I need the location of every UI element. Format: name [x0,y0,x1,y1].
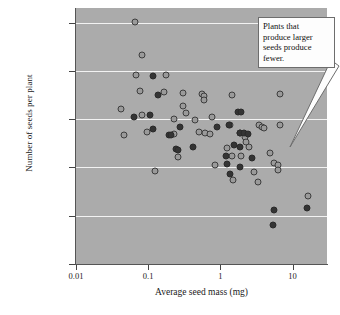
data-point [182,109,189,116]
data-point [175,153,182,160]
annotation-line: produce larger [263,32,331,43]
data-point [223,153,230,160]
x-axis-tick-label: 1 [218,272,222,281]
data-point [146,112,153,119]
data-point [154,92,161,99]
data-point [238,152,245,159]
data-point [254,178,261,185]
data-point [270,207,277,214]
x-axis-tick [148,265,149,270]
y-axis-tick [69,23,75,24]
data-point [160,88,167,95]
data-point [149,126,156,133]
data-point [212,162,219,169]
gridline-y [76,216,327,217]
y-axis-tick [69,216,75,217]
data-point [209,113,216,120]
data-point [260,124,267,131]
data-point [176,124,183,131]
data-point [133,71,140,78]
data-point [226,171,233,178]
gridline-y [76,71,327,72]
y-axis-tick [69,264,75,265]
data-point [238,108,245,115]
x-axis-title: Average seed mass (mg) [76,287,327,297]
x-axis-tick-label: 10 [288,272,297,281]
data-point [275,166,282,173]
data-point [229,91,236,98]
data-point [276,122,283,129]
data-point [167,131,174,138]
data-point [200,96,207,103]
y-axis-tick [69,71,75,72]
data-point [245,131,252,138]
data-point [249,154,256,161]
data-point [170,116,177,123]
data-point [250,169,257,176]
data-point [207,131,214,138]
data-point [270,221,277,228]
data-point [305,192,312,199]
y-axis-tick [69,119,75,120]
gridline-y [76,167,327,168]
annotation-line: seeds produce [263,42,331,53]
data-point [191,117,198,124]
x-axis-tick [293,265,294,270]
x-axis-tick-label: 0.1 [143,272,154,281]
data-point [162,71,169,78]
data-point [117,106,124,113]
figure-scatter-seed-mass: 101001,00010,000100,0001,000,000 Number … [0,0,340,315]
annotation-line: fewer. [263,53,331,64]
x-axis-tick [220,265,221,270]
y-axis-tick-labels: 101001,00010,000100,0001,000,000 [0,0,68,315]
data-point [174,147,181,154]
data-point [179,102,186,109]
annotation-line: Plants that [263,21,331,32]
annotation-callout: Plants thatproduce largerseeds producefe… [258,17,335,68]
data-point [214,123,221,130]
data-point [131,18,138,25]
y-axis-tick [69,167,75,168]
y-axis-title: Number of seeds per plant [24,33,34,213]
data-point [180,89,187,96]
data-point [120,131,127,138]
data-point [237,143,244,150]
data-point [139,51,146,58]
data-point [130,114,137,121]
gridline-y [76,119,327,120]
plot-bottom-axis-line [75,264,328,265]
data-point [190,144,197,151]
x-axis-tick [76,265,77,270]
data-point [225,121,232,128]
data-point [152,167,159,174]
data-point [304,204,311,211]
data-point [246,144,253,151]
data-point [230,177,237,184]
data-point [149,73,156,80]
data-point [267,150,274,157]
data-point [236,164,243,171]
x-axis-tick-label: 0.01 [69,272,84,281]
data-point [224,161,231,168]
data-point [276,91,283,98]
data-point [138,112,145,119]
data-point [136,87,143,94]
